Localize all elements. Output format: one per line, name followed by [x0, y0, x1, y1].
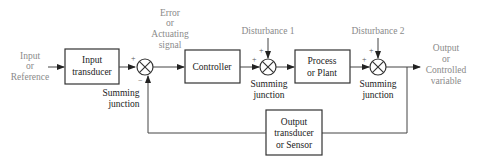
plant-label-line-2: or Plant [307, 68, 337, 78]
disturbance-1-label: Disturbance 1 [241, 26, 294, 36]
sj3-plus-sign-left: + [362, 55, 367, 64]
sj3-label-line-2: junction [361, 90, 393, 100]
output-label-line-1: Output [433, 43, 460, 53]
summing-junction-1: + − [131, 54, 153, 85]
controller-label: Controller [192, 62, 232, 72]
sj2-label-line-1: Summing [251, 79, 288, 89]
input-transducer-line-2: transducer [72, 67, 112, 77]
sj2-label-line-2: junction [252, 90, 284, 100]
input-label-line-2: or [26, 61, 35, 71]
output-label-line-3: Controlled [426, 65, 467, 75]
input-label-line-3: Reference [11, 72, 50, 82]
sj2-label: Summing junction [251, 79, 288, 100]
error-label: Error or Actuating signal [151, 8, 189, 50]
sj1-minus-sign: − [138, 76, 143, 85]
error-label-line-1: Error [160, 8, 181, 18]
disturbance-2-label: Disturbance 2 [351, 26, 404, 36]
input-label: Input or Reference [11, 51, 50, 82]
sensor-block: Output transducer or Sensor [266, 110, 322, 155]
controller-block: Controller [185, 50, 240, 83]
sensor-label-line-2: transducer [274, 128, 314, 138]
output-label: Output or Controlled variable [426, 43, 467, 86]
input-transducer-block: Input transducer [65, 49, 119, 84]
sensor-label-line-3: or Sensor [276, 140, 313, 150]
sj1-label: Summing junction [103, 88, 140, 109]
summing-junction-3: + + [362, 46, 386, 75]
sensor-label-line-1: Output [281, 117, 308, 127]
sj3-label-line-1: Summing [360, 79, 397, 89]
error-label-line-2: or [166, 18, 175, 28]
output-label-line-4: variable [431, 76, 462, 86]
plant-label-line-1: Process [307, 56, 336, 66]
sj3-plus-sign-top: + [369, 46, 374, 55]
error-label-line-3: Actuating [151, 29, 189, 39]
sj3-label: Summing junction [360, 79, 397, 100]
sj1-label-line-1: Summing [103, 88, 140, 98]
sj2-plus-sign-top: + [259, 46, 264, 55]
summing-junction-2: + + [252, 46, 276, 75]
block-diagram: Input or Reference Input transducer + − … [0, 0, 480, 168]
input-label-line-1: Input [20, 51, 40, 61]
plant-block: Process or Plant [295, 50, 350, 83]
error-label-line-4: signal [159, 40, 182, 50]
sj2-plus-sign-left: + [252, 55, 257, 64]
sj1-label-line-2: junction [107, 99, 139, 109]
sj1-plus-sign: + [131, 54, 136, 63]
output-label-line-2: or [442, 54, 451, 64]
feedback-path-to-sj1 [148, 76, 266, 133]
input-transducer-line-1: Input [82, 55, 102, 65]
